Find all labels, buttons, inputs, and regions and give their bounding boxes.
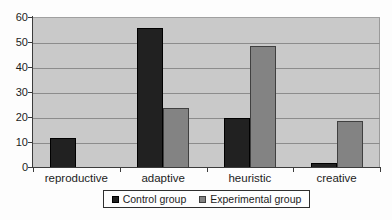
plot-area bbox=[33, 17, 380, 168]
y-tick bbox=[28, 142, 32, 143]
y-axis-label: 50 bbox=[0, 36, 28, 48]
y-tick bbox=[28, 42, 32, 43]
y-axis-label: 40 bbox=[0, 61, 28, 73]
legend-swatch-experimental-group bbox=[199, 196, 206, 203]
y-tick bbox=[28, 92, 32, 93]
gridline bbox=[33, 43, 380, 44]
bar-control-group bbox=[224, 118, 250, 168]
y-tick bbox=[28, 117, 32, 118]
legend-entry: Control group bbox=[112, 193, 187, 205]
x-axis-label-creative: creative bbox=[293, 172, 380, 185]
gridline bbox=[33, 143, 380, 144]
bar-experimental-group bbox=[337, 121, 363, 169]
y-axis-label: 60 bbox=[0, 11, 28, 23]
legend-entry: Experimental group bbox=[199, 193, 301, 205]
legend-label: Experimental group bbox=[210, 193, 301, 205]
y-tick bbox=[28, 167, 32, 168]
legend-label: Control group bbox=[123, 193, 187, 205]
x-axis-label-reproductive: reproductive bbox=[33, 172, 120, 185]
bar-control-group bbox=[50, 138, 76, 168]
bar-experimental-group bbox=[163, 108, 189, 168]
legend-swatch-control-group bbox=[112, 196, 119, 203]
gridline bbox=[33, 118, 380, 119]
y-tick bbox=[28, 17, 32, 18]
x-axis-label-heuristic: heuristic bbox=[207, 172, 294, 185]
x-tick bbox=[380, 168, 381, 172]
bar-chart-figure: 0102030405060 reproductiveadaptiveheuris… bbox=[0, 0, 392, 220]
y-axis-label: 30 bbox=[0, 86, 28, 98]
y-axis-label: 10 bbox=[0, 136, 28, 148]
y-axis-line bbox=[32, 16, 33, 168]
bar-control-group bbox=[137, 28, 163, 168]
gridline bbox=[33, 68, 380, 69]
gridline bbox=[33, 93, 380, 94]
bar-experimental-group bbox=[250, 46, 276, 169]
legend: Control groupExperimental group bbox=[33, 190, 380, 208]
y-axis-label: 20 bbox=[0, 111, 28, 123]
legend-box: Control groupExperimental group bbox=[103, 190, 311, 208]
y-axis-label: 0 bbox=[0, 161, 28, 173]
x-axis-label-adaptive: adaptive bbox=[120, 172, 207, 185]
y-tick bbox=[28, 67, 32, 68]
